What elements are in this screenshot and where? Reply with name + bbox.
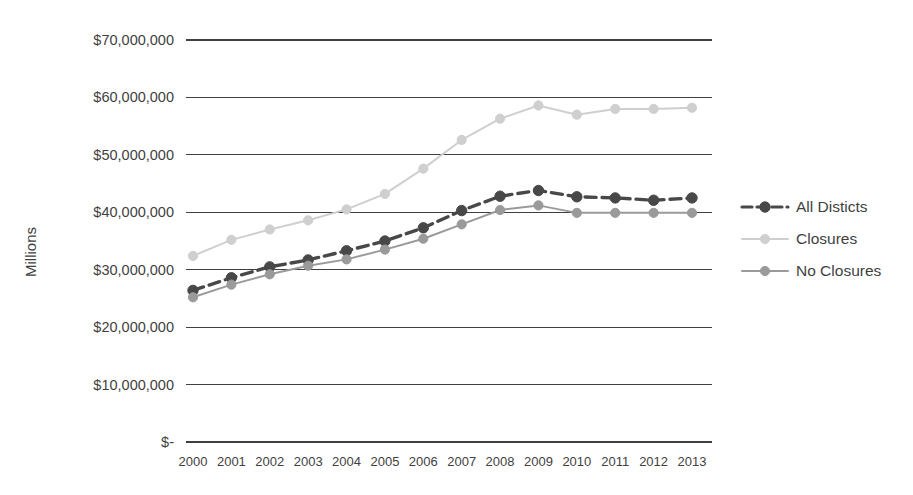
x-axis-tick-label: 2003 [294, 454, 323, 469]
data-point-marker [687, 208, 696, 217]
data-point-marker [495, 114, 504, 123]
legend-marker-swatch [760, 234, 769, 243]
y-axis-tick-label: $70,000,000 [93, 32, 174, 48]
data-point-marker [572, 192, 582, 202]
x-axis-tick-label: 2009 [524, 454, 553, 469]
y-axis-tick-label: $30,000,000 [93, 262, 174, 278]
gridlines [186, 40, 712, 442]
data-point-marker [649, 208, 658, 217]
legend-item-label: Closures [796, 230, 857, 247]
x-axis-tick-label: 2012 [639, 454, 668, 469]
data-point-marker [188, 251, 197, 260]
legend-marker-swatch [760, 202, 770, 212]
data-point-marker [534, 101, 543, 110]
y-axis-tick-label: $50,000,000 [93, 147, 174, 163]
data-point-marker [648, 195, 658, 205]
x-axis-tick-label: 2008 [486, 454, 515, 469]
data-point-marker [687, 103, 696, 112]
data-point-marker [456, 205, 466, 215]
y-axis-tick-label: $40,000,000 [93, 204, 174, 220]
y-axis-tick-label: $- [161, 434, 174, 450]
data-point-marker [380, 189, 389, 198]
legend-item[interactable]: Closures [742, 230, 857, 247]
y-axis-tick-label: $10,000,000 [93, 377, 174, 393]
data-series [188, 101, 696, 261]
data-point-marker [457, 220, 466, 229]
data-point-marker [572, 110, 581, 119]
legend-item[interactable]: All Disticts [742, 198, 868, 215]
data-point-marker [572, 208, 581, 217]
x-axis-tick-label: 2011 [601, 454, 629, 469]
line-chart: $70,000,000$60,000,000$50,000,000$40,000… [0, 0, 913, 495]
data-point-marker [342, 205, 351, 214]
data-point-marker [304, 216, 313, 225]
data-series [188, 185, 697, 295]
y-axis-tick-label: $60,000,000 [93, 89, 174, 105]
data-point-marker [227, 235, 236, 244]
data-point-marker [533, 185, 543, 195]
y-axis-tick-labels: $70,000,000$60,000,000$50,000,000$40,000… [93, 32, 174, 450]
data-point-marker [265, 270, 274, 279]
data-point-marker [188, 293, 197, 302]
x-axis-tick-label: 2001 [217, 454, 246, 469]
data-point-marker [342, 255, 351, 264]
legend-item-label: All Disticts [796, 198, 868, 215]
data-point-marker [227, 280, 236, 289]
data-point-marker [304, 261, 313, 270]
data-point-marker [649, 104, 658, 113]
x-axis-tick-label: 2002 [255, 454, 284, 469]
x-axis-tick-label: 2006 [409, 454, 438, 469]
data-point-marker [457, 135, 466, 144]
y-axis-title: Millions [22, 227, 39, 277]
x-axis-tick-label: 2010 [562, 454, 591, 469]
data-point-marker [418, 223, 428, 233]
x-axis-tick-label: 2005 [370, 454, 399, 469]
data-series [188, 201, 696, 302]
data-point-marker [495, 205, 504, 214]
data-point-marker [687, 193, 697, 203]
data-point-marker [611, 208, 620, 217]
x-axis-tick-label: 2007 [447, 454, 476, 469]
legend-marker-swatch [760, 266, 769, 275]
data-point-marker [534, 201, 543, 210]
data-point-marker [419, 234, 428, 243]
data-point-marker [610, 193, 620, 203]
chart-legend: All DistictsClosuresNo Closures [742, 198, 882, 279]
data-point-marker [495, 191, 505, 201]
data-point-marker [611, 104, 620, 113]
legend-item[interactable]: No Closures [742, 262, 882, 279]
x-axis-tick-label: 2013 [678, 454, 707, 469]
chart-container: $70,000,000$60,000,000$50,000,000$40,000… [0, 0, 913, 495]
data-point-marker [419, 164, 428, 173]
legend-item-label: No Closures [796, 262, 882, 279]
y-axis-tick-label: $20,000,000 [93, 319, 174, 335]
data-series-group [188, 101, 697, 302]
x-axis-tick-label: 2000 [179, 454, 208, 469]
data-point-marker [265, 225, 274, 234]
x-axis-tick-labels: 2000200120022003200420052006200720082009… [179, 454, 707, 469]
x-axis-tick-label: 2004 [332, 454, 361, 469]
data-point-marker [380, 245, 389, 254]
